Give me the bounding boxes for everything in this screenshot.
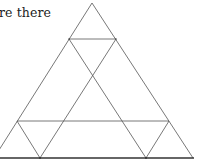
inner-diagonal-left-to-right — [69, 39, 146, 158]
bottom-right-diagonal — [146, 121, 169, 158]
vertex-dot — [115, 38, 116, 39]
bottom-left-diagonal — [17, 121, 40, 158]
vertex-dot — [145, 157, 147, 159]
outer-left-side — [0, 3, 92, 158]
vertex-dot — [68, 38, 69, 39]
triangle-figure — [0, 0, 199, 168]
outer-right-side — [92, 3, 193, 158]
inner-diagonal-right-to-left — [40, 39, 116, 158]
vertex-dot — [39, 157, 41, 159]
